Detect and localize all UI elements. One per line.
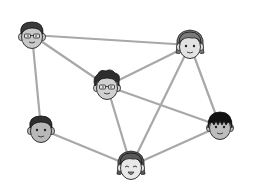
node-man-with-glasses-avatar[interactable]	[19, 22, 46, 49]
eye-icon	[193, 45, 195, 47]
node-messy-hair-man-with-glasses-avatar[interactable]	[94, 70, 121, 100]
social-network-diagram	[0, 0, 257, 196]
edge-C-F	[131, 45, 190, 166]
edge-E-F	[131, 126, 220, 166]
node-laughing-woman-avatar[interactable]	[117, 151, 145, 180]
glasses-icon	[100, 85, 106, 89]
edge-A-D	[32, 35, 41, 129]
eye-icon	[215, 126, 217, 128]
eye-icon	[36, 129, 38, 131]
glasses-icon	[25, 34, 31, 38]
glasses-icon	[34, 34, 40, 38]
eye-icon	[223, 126, 225, 128]
eye-icon	[185, 45, 187, 47]
edge-D-F	[41, 129, 131, 166]
eye-icon	[44, 129, 46, 131]
node-woman-avatar[interactable]	[176, 30, 204, 59]
nodes-layer	[19, 22, 234, 180]
node-black-hair-boy-avatar[interactable]	[207, 112, 234, 140]
network-canvas	[0, 0, 257, 196]
node-smiling-man-avatar[interactable]	[28, 116, 55, 143]
edge-B-E	[107, 86, 220, 126]
glasses-icon	[109, 85, 115, 89]
edge-A-C	[32, 35, 190, 45]
